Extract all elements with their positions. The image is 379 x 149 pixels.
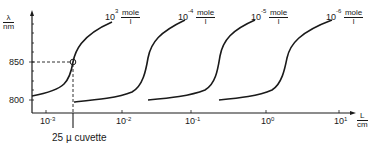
- series-label-1e-6: 10-6 molel: [326, 9, 363, 26]
- cuvette-annotation: 25 µ cuvette: [52, 133, 107, 142]
- ytick-label-850: 850: [9, 58, 24, 67]
- x-axis-label-unit: cm: [357, 121, 368, 129]
- ytick-label-800: 800: [9, 96, 24, 105]
- xtick-label-1e-2: 10-2: [116, 117, 131, 126]
- y-axis-label-unit: nm: [3, 23, 14, 31]
- x-axis-label: Lcm: [357, 112, 368, 129]
- series-label-1e-3: 103 molel: [105, 9, 140, 26]
- xtick-label-1e-1: 10-1: [185, 117, 200, 126]
- xtick-label-1e-3: 10-3: [40, 117, 55, 126]
- y-axis-label: λnm: [3, 14, 14, 31]
- curve-1e-4: [74, 20, 185, 102]
- xtick-label-1e0: 100: [261, 117, 274, 126]
- xtick-label-1e1: 101: [334, 117, 347, 126]
- y-axis-arrow-icon: [30, 10, 34, 16]
- series-label-1e-5: 10-5 molel: [251, 9, 288, 26]
- x-axis-arrow-icon: [350, 111, 356, 115]
- curve-1e-6: [219, 20, 332, 100]
- series-label-1e-4: 10-4 molel: [178, 9, 215, 26]
